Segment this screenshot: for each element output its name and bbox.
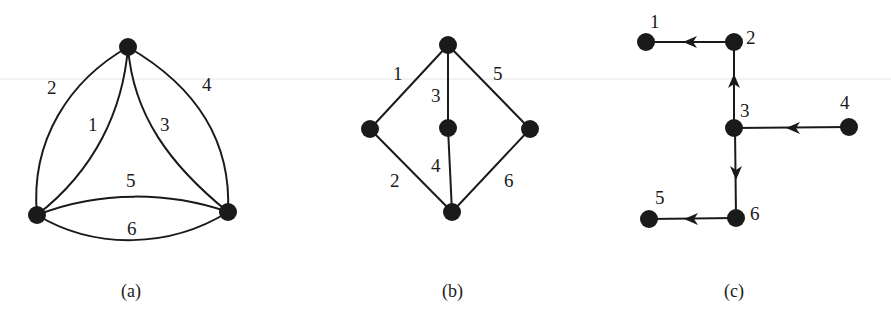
node-c-1	[637, 33, 655, 51]
edge-label-a-1: 1	[88, 114, 98, 135]
caption-c: (c)	[724, 281, 744, 302]
figure-canvas: 2 1 3 4 5 6 (a) 1 2 3 4 5 6 (b)	[0, 0, 891, 315]
diagram-b: 1 2 3 4 5 6 (b)	[361, 36, 539, 302]
edge-label-b-2: 2	[390, 170, 400, 191]
node-label-c-3: 3	[740, 100, 750, 121]
diagram-a: 2 1 3 4 5 6 (a)	[28, 38, 237, 302]
diagram-c: 1 2 3 4 5 6 (c)	[637, 11, 858, 302]
node-a-top	[119, 38, 137, 56]
edge-label-a-4: 4	[202, 74, 212, 95]
edge-label-a-6: 6	[127, 218, 137, 239]
edge-a-2	[36, 47, 128, 215]
caption-b: (b)	[442, 281, 463, 302]
node-b-center	[439, 119, 457, 137]
node-b-left	[361, 120, 379, 138]
edge-a-4	[128, 47, 228, 212]
edge-label-a-3: 3	[160, 114, 170, 135]
node-c-6	[727, 209, 745, 227]
node-c-2	[725, 33, 743, 51]
edge-label-b-5: 5	[493, 63, 503, 84]
node-label-c-4: 4	[840, 92, 850, 113]
node-label-c-5: 5	[655, 187, 665, 208]
edge-label-a-2: 2	[47, 77, 57, 98]
node-label-c-2: 2	[746, 27, 756, 48]
edge-label-b-4: 4	[431, 155, 441, 176]
node-label-c-1: 1	[650, 11, 660, 32]
node-c-3	[725, 119, 743, 137]
edge-label-b-3: 3	[431, 85, 441, 106]
caption-a: (a)	[121, 281, 141, 302]
node-a-bottom-right	[219, 203, 237, 221]
edge-label-b-6: 6	[504, 170, 514, 191]
node-c-4	[840, 118, 858, 136]
node-b-right	[521, 120, 539, 138]
node-a-bottom-left	[28, 206, 46, 224]
node-b-top	[439, 36, 457, 54]
node-label-c-6: 6	[750, 203, 760, 224]
edge-b-6	[452, 129, 530, 212]
edge-label-b-1: 1	[393, 63, 403, 84]
edge-b-4	[448, 128, 452, 212]
edge-label-a-5: 5	[126, 170, 136, 191]
node-c-5	[640, 210, 658, 228]
edge-a-5	[37, 197, 228, 215]
edge-a-3	[128, 47, 228, 212]
node-b-bottom	[443, 203, 461, 221]
edge-b-5	[448, 45, 530, 129]
